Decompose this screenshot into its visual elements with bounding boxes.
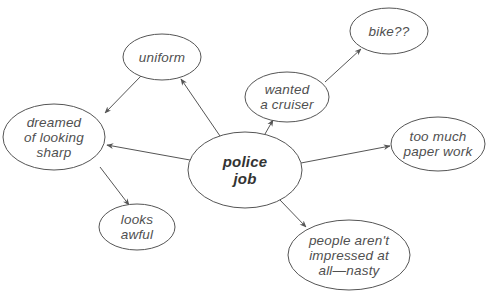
label-line: looks: [121, 212, 154, 227]
label-line: bike??: [369, 24, 410, 39]
label-line: too much: [404, 129, 473, 144]
edge-police-job-to-paper-work: [301, 146, 390, 163]
edge-police-job-to-wanted-cruiser: [265, 120, 273, 134]
node-people-nasty-label: people aren't impressed at all—nasty: [309, 233, 389, 278]
label-line: sharp: [24, 145, 84, 160]
label-line: impressed at: [309, 248, 389, 263]
label-line: dreamed: [24, 115, 84, 130]
label-line: uniform: [139, 50, 185, 65]
edge-police-job-to-dreamed-sharp: [107, 145, 190, 160]
node-dreamed-sharp-label: dreamed of looking sharp: [24, 115, 84, 160]
label-line: wanted: [260, 82, 314, 97]
label-line: a cruiser: [260, 97, 314, 112]
node-bike-label: bike??: [369, 24, 410, 39]
node-wanted-cruiser-label: wanted a cruiser: [260, 82, 314, 112]
edge-police-job-to-people-nasty: [280, 200, 306, 227]
label-line: paper work: [404, 144, 473, 159]
label-line: job: [223, 170, 268, 187]
label-line: police: [223, 153, 268, 170]
label-line: people aren't: [309, 233, 389, 248]
central-node-police-job-label: police job: [223, 153, 268, 187]
edge-police-job-to-uniform: [181, 79, 220, 136]
edge-wanted-cruiser-to-bike: [325, 49, 361, 82]
label-line: of looking: [24, 130, 84, 145]
node-paper-work-label: too much paper work: [404, 129, 473, 159]
node-looks-awful-label: looks awful: [121, 212, 154, 242]
edge-dreamed-sharp-to-looks-awful: [100, 167, 129, 205]
label-line: awful: [121, 227, 154, 242]
label-line: all—nasty: [309, 263, 389, 278]
edge-uniform-to-dreamed-sharp: [105, 76, 141, 113]
node-uniform-label: uniform: [139, 50, 185, 65]
